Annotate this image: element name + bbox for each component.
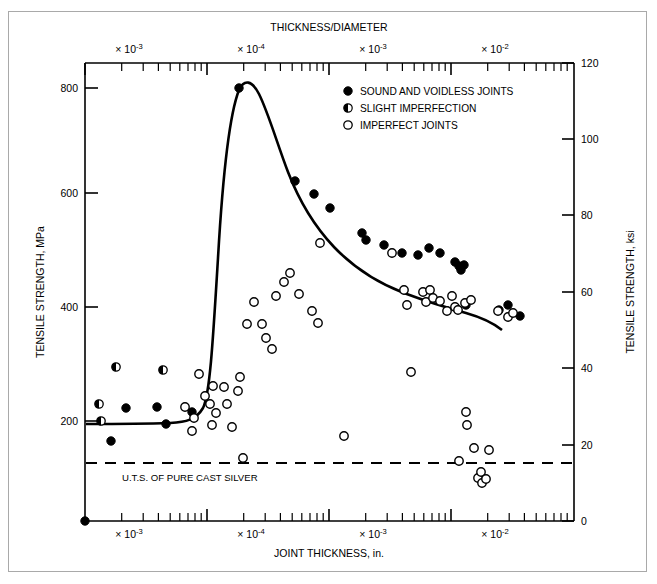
left-tick-400: 400	[60, 301, 78, 313]
left-tick-600: 600	[60, 187, 78, 199]
filled-circle-point	[398, 249, 406, 257]
open-circle-point	[234, 387, 242, 395]
top-axis-title: THICKNESS/DIAMETER	[270, 21, 388, 33]
filled-circle-point	[362, 236, 370, 244]
figure-root: THICKNESS/DIAMETER JOINT THICKNESS, in. …	[0, 0, 657, 584]
filled-circle-point	[425, 244, 433, 252]
open-circle-point	[188, 427, 196, 435]
open-circle-point	[509, 309, 517, 317]
svg-text:× 10-2: × 10-2	[481, 42, 509, 55]
open-circle-point	[403, 301, 411, 309]
filled-circle-point	[414, 251, 422, 259]
filled-circle-point	[380, 241, 388, 249]
svg-text:× 10-4: × 10-4	[237, 527, 265, 540]
open-circle-point	[467, 296, 475, 304]
right-tick-100: 100	[581, 133, 599, 145]
legend-item-imperfect-joints[interactable]: IMPERFECT JOINTS	[344, 120, 458, 131]
uts-line-label: U.T.S. OF PURE CAST SILVER	[122, 472, 258, 483]
open-circle-point	[250, 298, 258, 306]
bottom-decade-2-mantissa: × 10	[359, 528, 380, 540]
left-tick-800: 800	[60, 82, 78, 94]
open-circle-point	[181, 403, 189, 411]
legend-label-2: IMPERFECT JOINTS	[360, 120, 458, 131]
filled-circle-point	[107, 437, 115, 445]
filled-circle-point	[162, 420, 170, 428]
filled-circle-point	[504, 301, 512, 309]
top-decade-0-mantissa: × 10	[115, 43, 136, 55]
bottom-axis-title: JOINT THICKNESS, in.	[274, 547, 384, 559]
open-circle-point	[212, 409, 220, 417]
open-circle-point	[436, 297, 444, 305]
svg-text:× 10-3: × 10-3	[359, 42, 387, 55]
bottom-decade-1-exponent: -4	[258, 527, 265, 536]
open-circle-point	[236, 373, 244, 381]
open-circle-point	[316, 239, 324, 247]
bottom-decade-3-mantissa: × 10	[481, 528, 502, 540]
open-circle-point	[485, 446, 493, 454]
bottom-decade-0-mantissa: × 10	[115, 528, 136, 540]
right-axis-tick-labels: 120 100 80 60 40 20 0	[581, 57, 599, 527]
bottom-axis-ticks	[122, 509, 568, 521]
legend-item-sound-and-voidless-joints[interactable]: SOUND AND VOIDLESS JOINTS	[344, 86, 514, 97]
open-circle-point	[494, 307, 502, 315]
legend-item-slight-imperfection[interactable]: SLIGHT IMPERFECTION	[344, 103, 477, 114]
open-circle-point	[455, 457, 463, 465]
right-tick-20: 20	[581, 439, 593, 451]
svg-text:× 10-3: × 10-3	[115, 527, 143, 540]
left-tick-200: 200	[60, 415, 78, 427]
bottom-decade-2-exponent: -3	[380, 527, 387, 536]
legend-label-1: SLIGHT IMPERFECTION	[360, 103, 476, 114]
open-circle-point	[228, 423, 236, 431]
left-axis-title: TENSILE STRENGTH, MPa	[34, 226, 46, 358]
chart-svg: THICKNESS/DIAMETER JOINT THICKNESS, in. …	[0, 0, 657, 584]
right-tick-80: 80	[581, 209, 593, 221]
open-circle-point	[295, 290, 303, 298]
right-tick-0: 0	[581, 515, 587, 527]
open-circle-point	[272, 292, 280, 300]
top-axis-ticks	[85, 63, 567, 75]
top-decade-3-mantissa: × 10	[481, 43, 502, 55]
right-tick-40: 40	[581, 362, 593, 374]
left-axis-ticks	[85, 88, 98, 421]
open-circle-point	[195, 370, 203, 378]
open-circle-point	[262, 334, 270, 342]
open-circle-point	[470, 444, 478, 452]
open-circle-point	[462, 408, 470, 416]
filled-circle-point	[436, 249, 444, 257]
open-circle-point	[407, 368, 415, 376]
open-circle-point	[201, 392, 209, 400]
top-decade-0-exponent: -3	[136, 42, 143, 51]
open-circle-point	[239, 454, 247, 462]
top-decade-2-mantissa: × 10	[359, 43, 380, 55]
open-circle-point	[208, 421, 216, 429]
open-circle-point	[286, 269, 294, 277]
open-circle-point	[280, 278, 288, 286]
data-points-layer	[81, 84, 524, 525]
left-axis-tick-labels: 800 600 400 200	[60, 82, 78, 427]
right-tick-120: 120	[581, 57, 599, 69]
svg-text:× 10-2: × 10-2	[481, 527, 509, 540]
filled-circle-point	[310, 190, 318, 198]
open-circle-point	[206, 400, 214, 408]
filled-circle-point	[81, 517, 89, 525]
open-circle-icon	[344, 121, 352, 129]
open-circle-point	[243, 320, 251, 328]
open-circle-point	[443, 307, 451, 315]
open-circle-point	[223, 400, 231, 408]
open-circle-point	[400, 286, 408, 294]
half-filled-circle-point	[97, 417, 105, 425]
open-circle-point	[388, 249, 396, 257]
plot-axes-box	[85, 63, 574, 521]
filled-circle-point	[122, 404, 130, 412]
top-decade-3-exponent: -2	[502, 42, 509, 51]
open-circle-point	[314, 319, 322, 327]
filled-circle-point	[235, 84, 243, 92]
open-circle-point	[268, 345, 276, 353]
open-circle-point	[448, 292, 456, 300]
open-circle-point	[426, 286, 434, 294]
top-decade-1-exponent: -4	[258, 42, 265, 51]
half-filled-circle-point	[95, 400, 103, 408]
open-circle-point	[340, 432, 348, 440]
svg-text:× 10-4: × 10-4	[237, 42, 265, 55]
open-circle-point	[482, 475, 490, 483]
